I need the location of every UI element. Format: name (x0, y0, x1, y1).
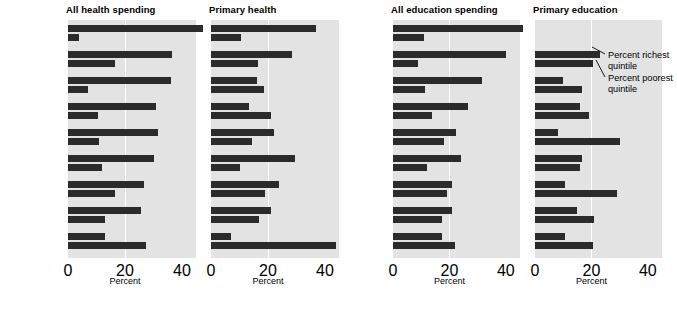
bar-poorest (535, 86, 582, 93)
bar-richest (68, 233, 105, 240)
richest-annotation: Percent richestquintile (608, 50, 669, 71)
bar-poorest (393, 242, 455, 249)
axis-tick: 0 (383, 262, 403, 280)
bar-poorest (393, 34, 424, 41)
bar-richest (393, 155, 461, 162)
bar-richest (211, 25, 316, 32)
figure-root: All health spendingGuinea1994Armenia1999… (0, 0, 677, 310)
bar-poorest (211, 86, 264, 93)
panel-title: All health spending (66, 4, 156, 15)
bar-richest (68, 181, 144, 188)
bar-poorest (211, 164, 240, 171)
bar-poorest (393, 216, 442, 223)
bar-poorest (393, 190, 447, 197)
bar-richest (393, 181, 452, 188)
bar-poorest (68, 216, 105, 223)
panel-title: Primary health (209, 4, 276, 15)
axis-tick: 40 (172, 262, 192, 280)
bar-poorest (211, 190, 265, 197)
panel-title: Primary education (533, 4, 618, 15)
bar-poorest (393, 60, 418, 67)
bar-richest (211, 233, 231, 240)
bar-richest (211, 129, 274, 136)
bar-poorest (393, 86, 425, 93)
bar-richest (211, 77, 257, 84)
bar-poorest (68, 60, 115, 67)
bar-richest (393, 129, 456, 136)
bar-poorest (393, 138, 444, 145)
bar-richest (68, 103, 156, 110)
bar-richest (535, 103, 580, 110)
bar-richest (535, 129, 558, 136)
bar-richest (68, 77, 171, 84)
poorest-annotation-line1: Percent poorest (608, 73, 673, 84)
bar-richest (211, 155, 295, 162)
bar-richest (535, 233, 565, 240)
axis-label: Percent (228, 276, 308, 286)
bar-richest (211, 181, 279, 188)
axis-tick: 40 (315, 262, 335, 280)
bar-poorest (393, 164, 427, 171)
bar-poorest (211, 138, 252, 145)
bar-poorest (68, 86, 88, 93)
bar-poorest (68, 164, 102, 171)
bar-richest (211, 207, 271, 214)
axis-tick: 0 (201, 262, 221, 280)
bar-poorest (211, 60, 258, 67)
richest-annotation-line1: Percent richest (608, 50, 669, 61)
bar-richest (535, 155, 582, 162)
bar-poorest (68, 190, 115, 197)
bar-poorest (535, 164, 580, 171)
bar-poorest (68, 112, 98, 119)
bar-poorest (211, 34, 241, 41)
bar-richest (393, 207, 452, 214)
bar-richest (68, 51, 172, 58)
poorest-annotation: Percent poorestquintile (608, 73, 673, 94)
axis-tick: 40 (496, 262, 516, 280)
axis-tick: 40 (638, 262, 658, 280)
bar-poorest (535, 216, 594, 223)
bar-richest (68, 25, 203, 32)
bar-poorest (68, 242, 146, 249)
bar-richest (535, 181, 565, 188)
bar-poorest (535, 60, 593, 67)
bar-richest (393, 103, 468, 110)
bar-richest (68, 155, 154, 162)
bar-poorest (211, 216, 259, 223)
bar-richest (393, 25, 523, 32)
bar-richest (211, 51, 292, 58)
bar-poorest (535, 190, 617, 197)
bar-poorest (393, 112, 432, 119)
bar-poorest (211, 112, 271, 119)
bar-richest (393, 51, 506, 58)
bar-richest (68, 129, 158, 136)
richest-annotation-line2: quintile (608, 61, 669, 72)
bar-richest (393, 233, 442, 240)
panel-title: All education spending (391, 4, 498, 15)
axis-label: Percent (85, 276, 165, 286)
bar-richest (393, 77, 482, 84)
bar-poorest (68, 34, 79, 41)
poorest-annotation-line2: quintile (608, 84, 673, 95)
bar-richest (211, 103, 249, 110)
bar-richest (535, 77, 563, 84)
bar-richest (535, 51, 600, 58)
bar-richest (535, 207, 577, 214)
bar-poorest (68, 138, 99, 145)
bar-poorest (211, 242, 336, 249)
bar-richest (68, 207, 141, 214)
axis-label: Percent (409, 276, 489, 286)
axis-tick: 0 (525, 262, 545, 280)
bar-poorest (535, 242, 593, 249)
axis-label: Percent (551, 276, 631, 286)
axis-tick: 0 (58, 262, 78, 280)
bar-poorest (535, 112, 589, 119)
bar-poorest (535, 138, 620, 145)
